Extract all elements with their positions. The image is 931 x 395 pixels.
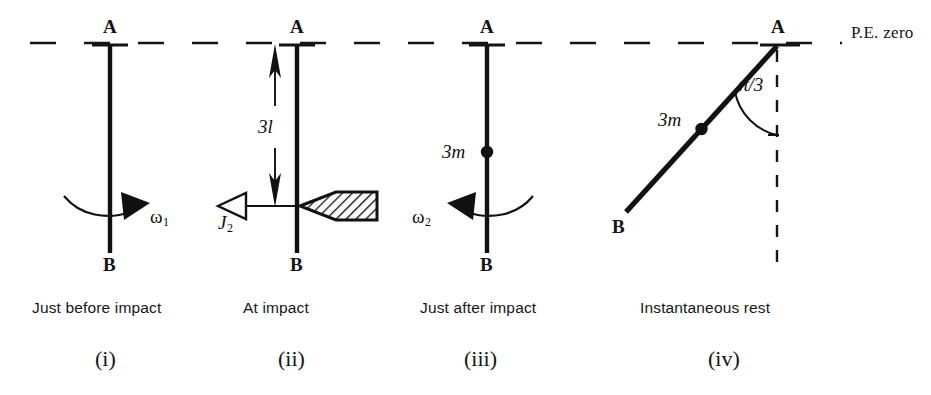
numeral-panel-i: (i) — [95, 348, 116, 370]
panel-iii-bottom-label-b: B — [480, 255, 493, 274]
omega1-arrowhead — [121, 192, 150, 220]
panel-i-bottom-label-b: B — [103, 255, 116, 274]
omega1-subscript: 1 — [163, 215, 169, 229]
physics-figure-rod-impact: P.E. zero A B ω1 A B 3l J2 A B 3m ω2 A B… — [0, 0, 931, 395]
impulse-symbol: J — [218, 212, 226, 233]
omega2-rotation-arc — [467, 196, 533, 216]
panel-ii-dimension-3l-label: 3l — [258, 117, 273, 136]
caption-panel-i: Just before impact — [32, 300, 161, 316]
panel-iv-bottom-label-b: B — [612, 217, 625, 236]
panel-iv-top-label-a: A — [771, 17, 785, 36]
numeral-panel-iv: (iv) — [708, 348, 740, 370]
diagram-canvas — [0, 0, 931, 395]
impulse-subscript: 2 — [227, 221, 233, 235]
panel-ii-bottom-label-b: B — [290, 255, 303, 274]
omega2-arrowhead — [447, 192, 476, 220]
panel-iii-omega2-label: ω2 — [412, 207, 431, 228]
panel-i-top-label-a: A — [103, 17, 117, 36]
omega2-subscript: 2 — [425, 215, 431, 229]
caption-panel-ii: At impact — [243, 300, 309, 316]
numeral-panel-iii: (iii) — [464, 348, 497, 370]
panel-iii-top-label-a: A — [480, 17, 494, 36]
striker-wedge-hatched — [300, 192, 377, 220]
panel-iii-mass-label: 3m — [442, 142, 465, 161]
omega2-symbol: ω — [412, 206, 425, 227]
numeral-panel-ii: (ii) — [278, 348, 305, 370]
panel-ii-top-label-a: A — [290, 17, 304, 36]
caption-panel-iii: Just after impact — [420, 300, 536, 316]
angle-arc-pi-over-3 — [735, 92, 777, 135]
panel-ii-impulse-j2-label: J2 — [218, 213, 233, 234]
point-mass-marker-panel-iv — [695, 123, 707, 135]
panel-i-omega1-label: ω1 — [150, 207, 169, 228]
pe-zero-label: P.E. zero — [851, 24, 914, 41]
omega1-symbol: ω — [150, 206, 163, 227]
panel-iv-mass-label: 3m — [658, 110, 681, 129]
panel-iv-angle-label: π/3 — [739, 75, 763, 94]
point-mass-marker-panel-iii — [481, 146, 493, 158]
omega1-rotation-arc — [64, 196, 130, 216]
caption-panel-iv: Instantaneous rest — [640, 300, 770, 316]
